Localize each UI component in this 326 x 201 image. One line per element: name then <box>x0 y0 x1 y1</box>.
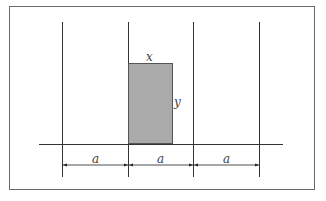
shaded-rectangle <box>129 64 173 144</box>
label-a-1: a <box>92 152 99 166</box>
label-a-3: a <box>223 152 230 166</box>
diagram-canvas: x y a a a <box>0 0 326 201</box>
label-a-2: a <box>157 152 164 166</box>
label-y: y <box>173 95 181 109</box>
label-x: x <box>146 50 153 64</box>
